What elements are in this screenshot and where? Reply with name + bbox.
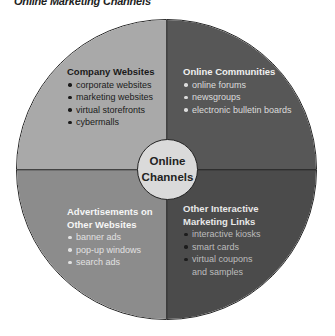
list-item: corporate websites <box>67 79 154 92</box>
center-hub: Online Channels <box>137 139 198 200</box>
list-item: interactive kiosks <box>183 228 261 241</box>
list-item-text: smart cards <box>192 242 239 252</box>
company-websites-list: corporate websites marketing websites vi… <box>67 79 154 129</box>
center-label: Online Channels <box>142 154 194 185</box>
online-communities-block: Online Communities online forums newsgro… <box>183 66 292 116</box>
list-item: search ads <box>67 256 153 269</box>
interactive-links-block: Other Interactive Marketing Links intera… <box>183 203 261 278</box>
interactive-links-list: interactive kiosks smart cards virtual c… <box>183 228 261 266</box>
list-item-continuation: and samples <box>183 266 261 279</box>
list-item: marketing websites <box>67 91 154 104</box>
interactive-links-heading-line1: Other Interactive <box>183 203 261 216</box>
list-item: cybermalls <box>67 116 154 129</box>
list-item: newsgroups <box>183 91 292 104</box>
list-item: pop-up windows <box>67 244 153 257</box>
center-label-line2: Channels <box>142 171 194 183</box>
list-item: virtual coupons <box>183 253 261 266</box>
center-label-line1: Online <box>150 155 186 167</box>
company-websites-heading: Company Websites <box>67 66 154 79</box>
interactive-links-heading-line2: Marketing Links <box>183 216 261 229</box>
list-item: banner ads <box>67 231 153 244</box>
advertisements-block: Advertisements on Other Websites banner … <box>67 206 153 269</box>
list-item: smart cards <box>183 241 261 254</box>
list-item: electronic bulletin boards <box>183 104 292 117</box>
diagram-title: Online Marketing Channels <box>14 0 151 7</box>
company-websites-block: Company Websites corporate websites mark… <box>67 66 154 129</box>
online-communities-list: online forums newsgroups electronic bull… <box>183 79 292 117</box>
list-item: online forums <box>183 79 292 92</box>
advertisements-heading-line2: Other Websites <box>67 219 153 232</box>
online-communities-heading: Online Communities <box>183 66 292 79</box>
advertisements-heading-line1: Advertisements on <box>67 206 153 219</box>
list-item-text: virtual coupons <box>192 254 253 264</box>
list-item-text: interactive kiosks <box>192 229 261 239</box>
advertisements-list: banner ads pop-up windows search ads <box>67 231 153 269</box>
list-item: virtual storefronts <box>67 104 154 117</box>
